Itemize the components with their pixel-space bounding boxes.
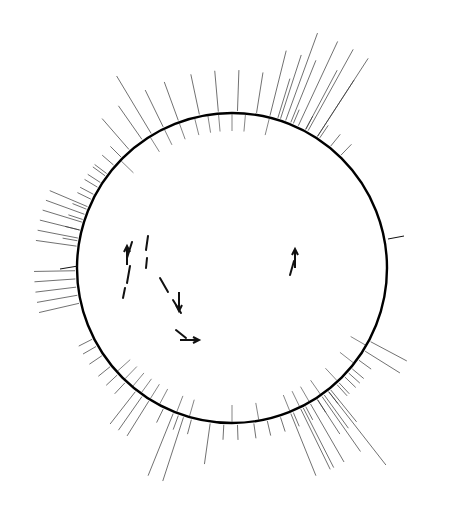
gene-leader-line: [359, 360, 371, 369]
gene-leader-line: [115, 383, 125, 394]
gene-leader-line: [254, 423, 256, 438]
gene-leader-line: [345, 377, 356, 387]
gene-leader-line: [73, 204, 87, 210]
gene-leader-line: [301, 409, 330, 469]
gene-leader-line: [88, 174, 101, 182]
gene-leader-line: [223, 425, 224, 440]
gene-leader-line: [80, 187, 93, 194]
gene-leader-line: [110, 392, 135, 424]
map-position-tick: [118, 360, 131, 371]
gene-leader-line: [352, 369, 363, 379]
gene-leader-line: [278, 79, 290, 118]
gene-leader-line: [164, 82, 178, 121]
map-position-tick: [190, 400, 195, 416]
map-position-tick: [177, 396, 183, 412]
gene-leader-line: [341, 144, 351, 155]
gene-leader-line: [257, 72, 263, 112]
attachment-site-leader: [388, 236, 404, 239]
gene-leader-line: [102, 155, 113, 165]
deletion-arrow: [124, 246, 130, 265]
gene-leader-line: [270, 51, 286, 116]
gene-leader-line: [117, 76, 152, 133]
map-position-tick: [311, 380, 321, 394]
gene-leader-line: [293, 110, 299, 124]
gene-leader-line: [331, 390, 357, 422]
map-position-tick: [195, 119, 199, 135]
gene-leader-line: [35, 287, 76, 292]
gene-leader-line: [204, 423, 210, 464]
deletion-arc-dash: [176, 330, 186, 338]
gene-leader-line: [63, 238, 78, 241]
map-position-tick: [160, 389, 168, 404]
gene-leader-line: [34, 279, 75, 282]
gene-leader-line: [89, 356, 101, 364]
gene-leader-line: [43, 210, 82, 222]
map-position-tick: [265, 119, 269, 135]
gene-leader-line: [36, 240, 77, 246]
gene-leader-line: [46, 200, 85, 214]
gene-leader-line: [329, 392, 386, 465]
gene-leader-line: [98, 367, 110, 376]
deletion-arrow: [176, 292, 182, 311]
genetic-map-figure: [0, 0, 465, 521]
map-position-tick: [121, 161, 133, 173]
gene-leader-line: [65, 226, 80, 230]
gene-leader-line: [324, 395, 348, 428]
gene-leader-line: [306, 407, 313, 420]
deletion-arrow: [180, 337, 199, 343]
gene-leader-line: [34, 271, 75, 272]
chromosome-circle: [77, 113, 387, 423]
gene-leader-line: [173, 416, 178, 430]
gene-leader-line: [148, 414, 173, 476]
gene-leader-line: [38, 230, 78, 238]
gene-leader-line: [77, 193, 90, 200]
map-position-tick: [219, 115, 220, 132]
gene-leader-line: [85, 179, 98, 187]
gene-leader-line: [39, 303, 79, 312]
gene-leader-line: [318, 58, 369, 136]
gene-leader-line: [191, 74, 200, 114]
gene-leader-line: [102, 119, 129, 150]
gene-leader-line: [320, 125, 328, 137]
gene-leader-line: [163, 417, 184, 481]
gene-leader-line: [331, 134, 340, 146]
map-position-tick: [208, 116, 211, 133]
map-position-tick: [301, 387, 310, 402]
gene-leader-line: [37, 295, 77, 302]
map-position-tick: [351, 337, 366, 346]
gene-leader-line: [349, 373, 360, 383]
attachment-site-leader: [60, 266, 78, 269]
gene-leader-line: [127, 401, 149, 436]
gene-leader-line: [237, 70, 238, 111]
gene-leader-line: [187, 420, 191, 434]
map-position-tick: [150, 137, 159, 151]
gene-leader-line: [118, 106, 142, 140]
map-position-tick: [125, 367, 137, 379]
gene-leader-line: [267, 421, 270, 436]
gene-leader-line: [237, 425, 238, 440]
deletion-arc-dash: [290, 261, 294, 275]
gene-leader-line: [293, 413, 299, 427]
map-position-tick: [150, 384, 159, 398]
gene-leader-line: [291, 60, 316, 122]
map-graphics: [0, 0, 465, 521]
deletion-arc-dash: [146, 236, 148, 268]
gene-leader-line: [215, 71, 219, 112]
gene-leader-line: [83, 347, 96, 355]
map-position-tick: [292, 391, 299, 406]
gene-leader-line: [322, 397, 360, 452]
map-position-tick: [141, 379, 151, 393]
gene-leader-line: [157, 409, 164, 422]
gene-leader-line: [303, 408, 333, 468]
gene-leader-line: [110, 146, 121, 157]
gene-leader-line: [291, 414, 316, 476]
gene-leader-line: [50, 191, 88, 207]
gene-leader-line: [145, 90, 163, 127]
gene-leader-line: [79, 339, 92, 346]
map-position-tick: [133, 373, 144, 386]
map-position-tick: [256, 403, 259, 420]
gene-leader-line: [106, 375, 117, 385]
map-position-tick: [179, 123, 185, 139]
map-position-tick: [283, 395, 289, 411]
gene-leader-line: [286, 33, 318, 120]
